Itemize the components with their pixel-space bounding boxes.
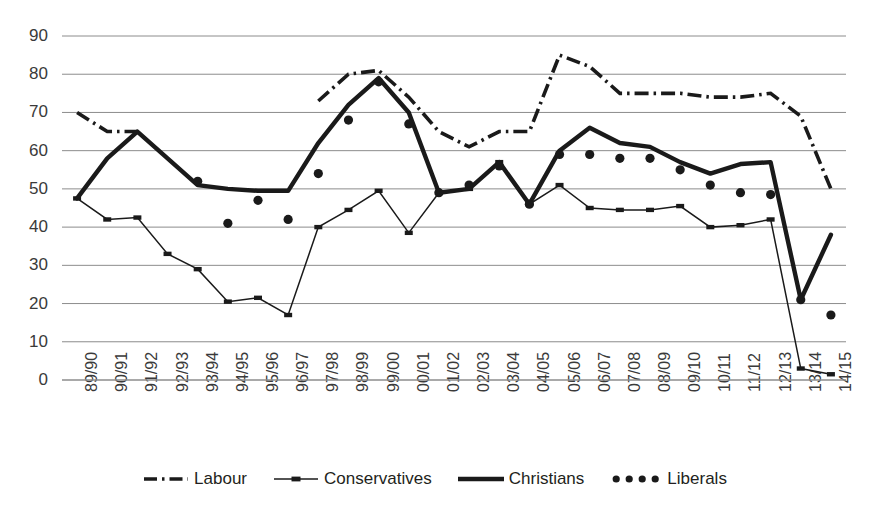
series-labour [77,55,831,189]
data-point [103,217,111,221]
data-point [646,208,654,212]
data-point [405,231,413,235]
legend-item-label: Christians [509,470,585,487]
data-point [736,223,744,227]
data-point [253,196,262,205]
data-point [645,154,654,163]
legend-item-label: Labour [194,470,247,487]
data-point [284,215,293,224]
data-point [586,206,594,210]
gridlines [62,36,846,380]
line-chart: 0102030405060708090 89/9090/9191/9292/93… [0,0,870,522]
series-liberals [193,77,835,319]
data-point [827,372,835,376]
thin-line-marker-swatch [273,472,319,486]
data-point [706,225,714,229]
data-point [495,161,504,170]
data-point [194,267,202,271]
data-point [164,252,172,256]
dotted-line-swatch [610,472,662,486]
data-point [375,189,383,193]
data-point [767,217,775,221]
chart-legend: LabourConservativesChristiansLiberals [0,470,870,487]
data-point [736,188,745,197]
data-point [676,165,685,174]
data-point [344,115,353,124]
data-point [797,366,805,370]
data-point [404,119,413,128]
legend-item-liberals[interactable]: Liberals [610,470,727,487]
data-point [676,204,684,208]
data-point [314,225,322,229]
data-point [525,200,534,209]
data-point [374,77,383,86]
data-point [254,296,262,300]
data-point [796,295,805,304]
legend-item-label: Liberals [667,470,727,487]
data-point [193,177,202,186]
data-point [133,215,141,219]
plot-area [0,0,870,522]
series-layer [73,55,835,376]
legend-item-labour[interactable]: Labour [143,470,247,487]
data-point [706,180,715,189]
legend-item-conservatives[interactable]: Conservatives [273,470,432,487]
data-point [434,188,443,197]
data-point [556,183,564,187]
data-point [826,310,835,319]
data-point [766,190,775,199]
thick-line-swatch [458,472,504,486]
data-point [224,299,232,303]
legend-item-label: Conservatives [324,470,432,487]
data-point [615,154,624,163]
data-point [585,150,594,159]
data-point [314,169,323,178]
data-point [616,208,624,212]
data-point [284,313,292,317]
dash-dot-line-swatch [143,472,189,486]
data-point [344,208,352,212]
data-point [555,150,564,159]
data-point [464,180,473,189]
legend-item-christians[interactable]: Christians [458,470,585,487]
data-point [223,219,232,228]
